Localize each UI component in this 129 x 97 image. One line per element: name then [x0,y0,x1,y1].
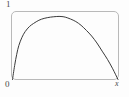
y-axis-max-label: 1 [6,0,11,9]
curve-path [13,16,119,79]
figure-canvas: 1 0 x [0,0,129,97]
curve-layer [0,0,129,97]
x-axis-max-label: x [115,80,119,88]
origin-label: 0 [5,80,10,89]
